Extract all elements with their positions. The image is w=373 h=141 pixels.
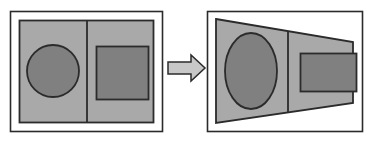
target-ellipse — [225, 33, 277, 109]
source-circle — [27, 45, 79, 97]
transformation-figure: Source view Transformed view transforms … — [0, 0, 373, 141]
target-panel — [208, 12, 363, 132]
source-square — [97, 47, 149, 100]
target-rectangle — [301, 54, 357, 92]
figure-canvas — [0, 0, 373, 141]
source-panel — [11, 12, 163, 132]
